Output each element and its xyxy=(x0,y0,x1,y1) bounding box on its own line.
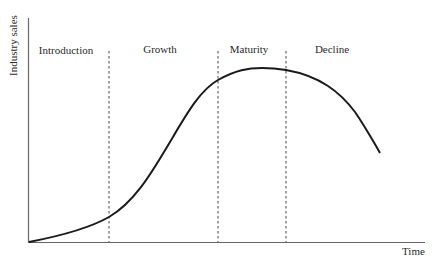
x-axis-label: Time xyxy=(402,245,425,257)
stage-label-growth: Growth xyxy=(143,43,177,55)
stage-label-decline: Decline xyxy=(315,43,349,55)
sales-curve xyxy=(29,68,380,242)
life-cycle-chart xyxy=(0,0,440,265)
y-axis-label: Industry sales xyxy=(7,15,19,76)
stage-label-maturity: Maturity xyxy=(230,43,269,55)
stage-label-introduction: Introduction xyxy=(39,44,93,56)
